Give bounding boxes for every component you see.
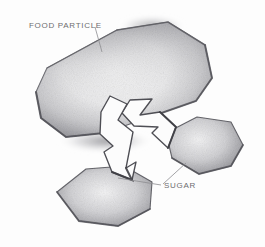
sugar-crystal-right xyxy=(166,117,243,174)
food-particle xyxy=(36,22,212,137)
label-food-particle: FOOD PARTICLE xyxy=(29,21,102,30)
sugar-crystal-lower xyxy=(57,166,152,226)
pencil-sketch-illustration xyxy=(0,0,265,247)
label-sugar: SUGAR xyxy=(164,181,196,190)
sketch-figure: FOOD PARTICLE SUGAR xyxy=(0,0,265,247)
